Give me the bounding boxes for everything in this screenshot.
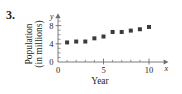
y-axis-label-line-2: (in millions) (34, 20, 44, 67)
y-axis-tick-label: 8 (49, 21, 53, 31)
y-axis-label-line-1: Population (24, 20, 34, 67)
x-axis-tick-label: 10 (145, 65, 154, 75)
y-axis-tick-label: 4 (49, 39, 54, 49)
data-point (92, 36, 96, 40)
y-axis-tick-label: 0 (49, 57, 53, 67)
exercise-figure: 3. Population (in millions) xy0510048 Ye… (0, 0, 182, 94)
data-point (111, 30, 115, 34)
x-axis-symbol: x (164, 64, 169, 73)
data-point (74, 40, 78, 44)
data-point (102, 35, 106, 39)
exercise-number: 3. (6, 8, 15, 23)
data-point (138, 27, 142, 31)
y-axis-arrow (55, 13, 60, 18)
x-axis-tick-label: 0 (56, 65, 60, 75)
data-point (65, 40, 69, 44)
data-point (147, 25, 151, 29)
data-point (83, 40, 87, 44)
x-axis-label: Year (72, 76, 128, 86)
y-axis-label: Population (in millions) (24, 6, 44, 82)
data-point (129, 29, 133, 33)
x-axis-tick-label: 5 (101, 65, 105, 75)
data-point (120, 30, 124, 34)
